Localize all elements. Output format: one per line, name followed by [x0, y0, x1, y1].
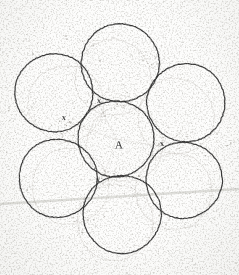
center-label-a: A [115, 139, 123, 150]
gap-mark-upper-left: x [62, 114, 67, 122]
gap-mark-bottom-left: x [96, 176, 100, 184]
gap-mark-right: x [160, 140, 165, 148]
scanned-figure: Axxxx [0, 0, 239, 275]
gap-mark-top: x [97, 97, 101, 105]
